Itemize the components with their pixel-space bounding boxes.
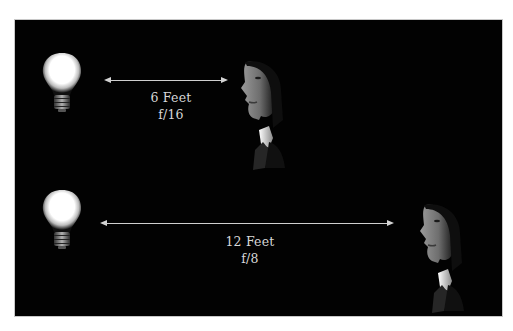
aperture-label: f/16 [131,106,211,123]
face-profile-icon [398,201,478,317]
arrow-head-right-icon [387,220,394,226]
lightbulb-icon [40,188,84,250]
arrow-line [108,80,224,81]
distance-label-top-group: 6 Feet f/16 [131,89,211,123]
distance-label: 12 Feet [207,233,293,250]
lightbulb-icon [40,51,84,113]
distance-label: 6 Feet [131,89,211,106]
face-profile-icon [219,58,299,174]
arrow-line [104,223,390,224]
diagram-frame: 6 Feet f/16 [14,19,503,317]
distance-arrow-bottom [100,219,394,228]
aperture-label: f/8 [207,250,293,267]
distance-arrow-top [104,76,228,85]
distance-label-bottom-group: 12 Feet f/8 [207,233,293,267]
